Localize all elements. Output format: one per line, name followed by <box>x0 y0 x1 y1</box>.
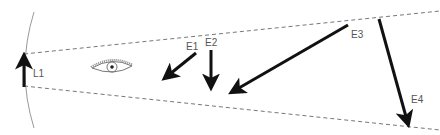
image-label-e3: E3 <box>351 29 364 40</box>
diagram-svg: L1 E1E2E3E4 <box>0 0 440 135</box>
lower-sight-line <box>24 86 440 130</box>
image-label-e1: E1 <box>186 41 199 52</box>
optics-diagram: L1 E1E2E3E4 <box>0 0 440 135</box>
image-label-e4: E4 <box>411 94 424 105</box>
object-label-l1: L1 <box>33 68 45 79</box>
image-arrow-e3 <box>232 25 348 92</box>
image-arrows: E1E2E3E4 <box>165 19 424 124</box>
upper-sight-line <box>24 11 440 54</box>
eye-icon <box>91 60 133 72</box>
image-arrow-e1 <box>165 53 196 78</box>
image-label-e2: E2 <box>205 37 218 48</box>
image-arrow-e4 <box>379 19 408 124</box>
